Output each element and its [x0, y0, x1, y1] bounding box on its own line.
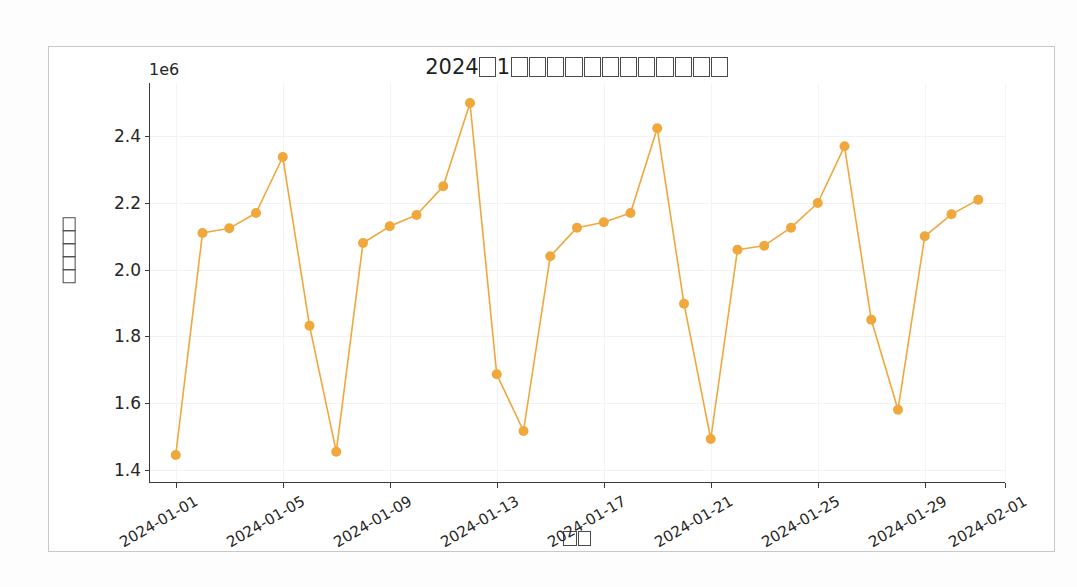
x-tick-mark	[1005, 483, 1006, 488]
missing-glyph-box	[63, 256, 76, 270]
data-point	[652, 123, 662, 133]
data-point	[893, 405, 903, 415]
x-tick-mark	[497, 483, 498, 488]
data-point	[599, 217, 609, 227]
chart-title: 20241	[149, 55, 1005, 79]
data-point	[920, 231, 930, 241]
missing-glyph-box	[675, 57, 692, 77]
missing-glyph-box	[63, 269, 76, 283]
series-markers	[171, 98, 984, 460]
missing-glyph-box	[565, 57, 582, 77]
x-tick-mark	[283, 483, 284, 488]
page-canvas: 20241 1e6 1.41.61.82.02.22.42024-01-0120…	[0, 0, 1077, 587]
plot-area: 1e6 1.41.61.82.02.22.42024-01-012024-01-…	[149, 83, 1005, 483]
missing-glyph-box	[602, 57, 619, 77]
data-point	[866, 315, 876, 325]
y-tick-label: 2.0	[114, 260, 141, 280]
y-axis-label-glyphs	[61, 217, 77, 283]
data-point	[545, 251, 555, 261]
data-point	[305, 321, 315, 331]
data-point	[706, 434, 716, 444]
data-point	[198, 228, 208, 238]
missing-glyph-box	[656, 57, 673, 77]
data-point	[973, 195, 983, 205]
data-point	[626, 208, 636, 218]
y-tick-label: 1.8	[114, 326, 141, 346]
data-point	[438, 181, 448, 191]
data-point	[519, 426, 529, 436]
line-series	[149, 83, 1005, 483]
x-tick-mark	[925, 483, 926, 488]
y-axis-offset-text: 1e6	[149, 60, 179, 79]
data-point	[385, 221, 395, 231]
missing-glyph-box	[479, 57, 496, 77]
missing-glyph-box	[529, 57, 546, 77]
data-point	[412, 210, 422, 220]
chart-figure: 20241 1e6 1.41.61.82.02.22.42024-01-0120…	[48, 46, 1055, 552]
series-polyline	[176, 103, 979, 455]
missing-glyph-box	[63, 243, 76, 257]
gridline-vertical	[1005, 83, 1006, 483]
y-axis-label	[61, 217, 77, 283]
data-point	[679, 299, 689, 309]
data-point	[358, 238, 368, 248]
missing-glyph-box	[63, 230, 76, 244]
axis-spine-bottom	[149, 482, 1005, 484]
missing-glyph-box	[711, 57, 728, 77]
title-month: 1	[497, 55, 510, 79]
data-point	[840, 141, 850, 151]
y-tick-label: 2.4	[114, 126, 141, 146]
x-tick-mark	[176, 483, 177, 488]
data-point	[492, 369, 502, 379]
missing-glyph-box	[620, 57, 637, 77]
title-year: 2024	[425, 55, 478, 79]
data-point	[278, 152, 288, 162]
data-point	[813, 198, 823, 208]
missing-glyph-box	[511, 57, 528, 77]
data-point	[947, 209, 957, 219]
y-tick-label: 1.6	[114, 393, 141, 413]
y-tick-label: 2.2	[114, 193, 141, 213]
data-point	[331, 447, 341, 457]
y-tick-label: 1.4	[114, 460, 141, 480]
data-point	[171, 450, 181, 460]
missing-glyph-box	[547, 57, 564, 77]
data-point	[465, 98, 475, 108]
x-tick-mark	[818, 483, 819, 488]
missing-glyph-box	[584, 57, 601, 77]
missing-glyph-box	[638, 57, 655, 77]
missing-glyph-box	[63, 217, 76, 231]
data-point	[572, 223, 582, 233]
x-tick-mark	[711, 483, 712, 488]
data-point	[251, 208, 261, 218]
x-tick-mark	[390, 483, 391, 488]
data-point	[733, 245, 743, 255]
axis-spine-left	[149, 83, 150, 483]
x-tick-mark	[604, 483, 605, 488]
data-point	[786, 223, 796, 233]
missing-glyph-box	[693, 57, 710, 77]
data-point	[759, 241, 769, 251]
data-point	[224, 223, 234, 233]
